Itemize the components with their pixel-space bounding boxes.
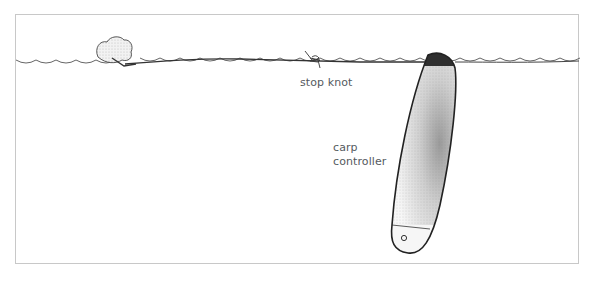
carp-controller-label-line1: carp (333, 141, 393, 155)
carp-controller-label: carp controller (333, 141, 393, 169)
carp-controller-float (380, 40, 470, 265)
stop-knot (305, 51, 320, 68)
carp-controller-label-line2: controller (333, 155, 393, 169)
bread-crust-bait (97, 37, 136, 66)
stop-knot-label: stop knot (300, 76, 353, 90)
diagram-canvas (0, 0, 595, 281)
